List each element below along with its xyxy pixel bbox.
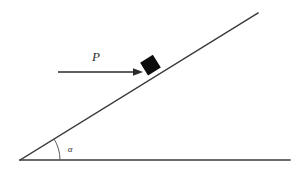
force-label: P bbox=[91, 49, 100, 64]
block-body bbox=[140, 55, 161, 76]
force-arrow bbox=[58, 68, 143, 76]
block bbox=[140, 55, 161, 76]
angle-label: α bbox=[68, 144, 73, 154]
force-arrow-head bbox=[133, 68, 143, 76]
diagram-canvas: α P bbox=[0, 0, 301, 174]
angle-arc bbox=[54, 139, 60, 160]
inclined-plane-diagram: α P bbox=[0, 0, 301, 174]
incline-line bbox=[20, 13, 258, 160]
